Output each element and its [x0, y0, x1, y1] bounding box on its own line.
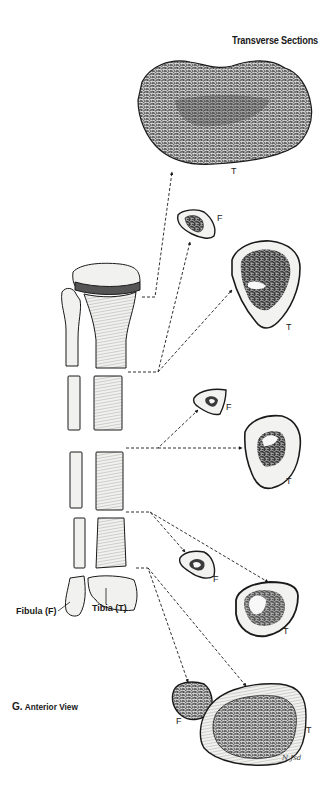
section-1-tibia-proximal: [138, 61, 312, 164]
illustrator-signature: N Jsd: [282, 754, 301, 762]
section-3-fibula: [193, 389, 226, 414]
section-label-f: F: [176, 716, 182, 726]
figure-title: Transverse Sections: [232, 35, 318, 46]
tibia-fibula-anterior-view: [62, 263, 140, 616]
caption-letter: G.: [12, 700, 23, 712]
caption-text: Anterior View: [25, 702, 78, 712]
anatomical-illustration: [0, 0, 335, 806]
section-label-f: F: [213, 574, 219, 584]
tibia-label: Tibia (T): [92, 603, 127, 613]
section-label-t: T: [286, 322, 292, 332]
section-label-t: T: [231, 166, 237, 176]
section-3-tibia: [245, 416, 301, 489]
section-2-fibula: [178, 210, 215, 238]
section-5-tibia: [200, 684, 306, 765]
fibula-label: Fibula (F): [16, 606, 57, 616]
section-4-fibula: [180, 551, 215, 578]
figure-caption: G. Anterior View: [12, 700, 78, 712]
section-label-f: F: [217, 213, 223, 223]
section-2-tibia: [232, 241, 300, 328]
section-label-t: T: [306, 725, 312, 735]
section-label-t: T: [283, 626, 289, 636]
section-label-f: F: [226, 402, 232, 412]
section-label-t: T: [286, 476, 292, 486]
